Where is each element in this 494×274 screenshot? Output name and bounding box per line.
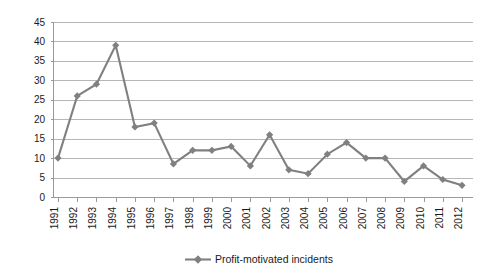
x-tick-label-1994: 1994 bbox=[107, 207, 118, 230]
y-tick-label-35: 35 bbox=[34, 55, 46, 66]
y-tick-label-45: 45 bbox=[34, 17, 46, 28]
x-tick-label-1992: 1992 bbox=[68, 207, 79, 230]
chart-container: 051015202530354045 199119921993199419951… bbox=[0, 0, 494, 274]
x-tick-label-2001: 2001 bbox=[241, 207, 252, 230]
x-tick-label-2008: 2008 bbox=[376, 207, 387, 230]
y-tick-label-5: 5 bbox=[39, 172, 45, 183]
x-tick-label-2009: 2009 bbox=[395, 207, 406, 230]
y-tick-label-0: 0 bbox=[39, 192, 45, 203]
x-tick-label-2007: 2007 bbox=[357, 207, 368, 230]
x-tick-label-2002: 2002 bbox=[261, 207, 272, 230]
y-tick-label-15: 15 bbox=[34, 133, 46, 144]
x-tick-label-1999: 1999 bbox=[203, 207, 214, 230]
x-tick-label-2005: 2005 bbox=[318, 207, 329, 230]
line-chart: 051015202530354045 199119921993199419951… bbox=[0, 0, 494, 274]
x-tick-label-1996: 1996 bbox=[145, 207, 156, 230]
x-tick-label-1997: 1997 bbox=[164, 207, 175, 230]
y-tick-label-30: 30 bbox=[34, 75, 46, 86]
x-tick-label-2006: 2006 bbox=[338, 207, 349, 230]
x-tick-label-2012: 2012 bbox=[453, 207, 464, 230]
x-tick-label-2010: 2010 bbox=[415, 207, 426, 230]
legend-label-profit-motivated-incidents: Profit-motivated incidents bbox=[215, 253, 333, 265]
x-tick-label-1995: 1995 bbox=[126, 207, 137, 230]
x-tick-label-2004: 2004 bbox=[299, 207, 310, 230]
x-tick-label-2000: 2000 bbox=[222, 207, 233, 230]
x-tick-label-1998: 1998 bbox=[184, 207, 195, 230]
y-tick-label-10: 10 bbox=[34, 153, 46, 164]
y-tick-label-25: 25 bbox=[34, 94, 46, 105]
x-tick-label-1991: 1991 bbox=[49, 207, 60, 230]
x-tick-label-2011: 2011 bbox=[434, 207, 445, 229]
y-tick-label-40: 40 bbox=[34, 36, 46, 47]
y-tick-label-20: 20 bbox=[34, 114, 46, 125]
x-tick-label-2003: 2003 bbox=[280, 207, 291, 230]
x-tick-label-1993: 1993 bbox=[87, 207, 98, 230]
